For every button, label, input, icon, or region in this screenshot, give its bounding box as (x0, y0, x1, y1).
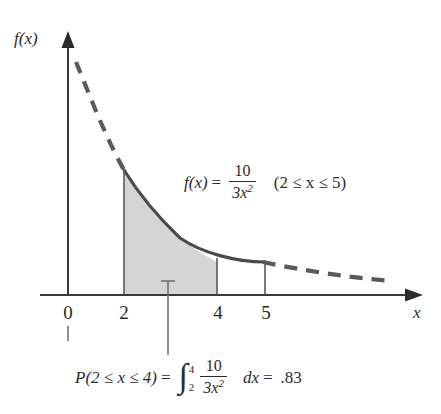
differential-dx: dx (243, 368, 259, 388)
x-tick-label-4: 4 (205, 303, 231, 322)
function-denominator-exponent: 2 (247, 182, 253, 194)
integral-operator: ∫ 4 2 (179, 363, 195, 393)
probability-result-equals: = (259, 368, 277, 388)
probability-formula-label: P(2 ≤ x ≤ 4) = ∫ 4 2 10 3x2 dx = .83 (75, 358, 302, 397)
density-curve-figure: f(x) x 0 2 4 5 f(x) = 10 3x2 (2 ≤ x ≤ 5)… (0, 0, 441, 414)
y-axis-arrowhead (62, 31, 75, 48)
density-curve-dashed-right (263, 262, 392, 281)
x-tick-label-0: 0 (55, 303, 81, 322)
integral-upper-limit: 4 (189, 363, 195, 375)
x-axis-arrowhead (405, 289, 423, 302)
probability-denominator-exponent: 2 (218, 377, 224, 389)
function-formula-lhs: f(x) (184, 173, 208, 193)
probability-fraction: 10 3x2 (200, 358, 227, 397)
function-fraction-denominator: 3x2 (229, 182, 256, 202)
probability-formula-lhs: P(2 ≤ x ≤ 4) (75, 368, 157, 388)
function-formula-fraction: 10 3x2 (229, 163, 256, 202)
y-axis-label: f(x) (14, 30, 38, 47)
function-formula-label: f(x) = 10 3x2 (2 ≤ x ≤ 5) (184, 163, 346, 202)
integral-sign: ∫ (179, 363, 188, 390)
x-tick-label-2: 2 (111, 303, 137, 322)
function-fraction-numerator: 10 (231, 163, 253, 181)
x-axis-label: x (413, 304, 421, 321)
function-denominator-base: 3x (232, 185, 247, 202)
probability-formula-equals: = (157, 368, 175, 388)
density-curve-dashed-left (76, 62, 124, 170)
function-formula-equals: = (208, 173, 226, 193)
probability-fraction-numerator: 10 (203, 358, 225, 376)
plot-canvas (0, 0, 441, 414)
x-tick-label-5: 5 (253, 303, 279, 322)
probability-fraction-denominator: 3x2 (200, 377, 227, 397)
integral-lower-limit: 2 (189, 381, 195, 393)
probability-result-value: .83 (281, 368, 302, 388)
function-domain-note: (2 ≤ x ≤ 5) (274, 173, 346, 193)
probability-denominator-base: 3x (203, 380, 218, 397)
integral-limits: 4 2 (189, 363, 195, 393)
